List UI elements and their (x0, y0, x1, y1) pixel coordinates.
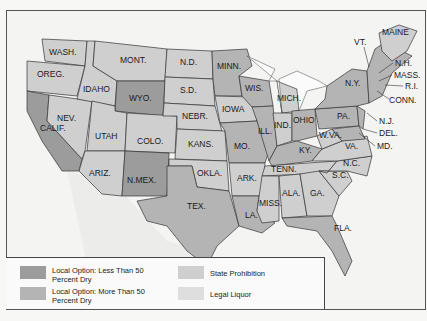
label-ark: ARK. (237, 173, 257, 183)
label-wis: WIS. (245, 83, 263, 93)
label-ri: R.I. (405, 81, 418, 91)
legend-swatch (20, 266, 46, 279)
label-ala: ALA. (282, 188, 300, 198)
label-md: MD. (377, 141, 393, 151)
label-utah: UTAH (95, 131, 118, 141)
legend-item-more-than-50-dry: Local Option: More Than 50 Percent Dry (20, 287, 162, 305)
label-wyo: WYO. (129, 93, 152, 103)
label-del: DEL. (379, 128, 398, 138)
label-nebr: NEBR. (182, 111, 208, 121)
label-pa: PA. (337, 111, 350, 121)
label-wash: WASH. (49, 47, 77, 57)
legend-swatch (178, 266, 204, 279)
label-vt: VT. (354, 37, 366, 47)
state-nmex (122, 151, 169, 196)
label-okla: OKLA. (197, 168, 222, 178)
label-ga: GA. (310, 188, 325, 198)
label-conn: CONN. (389, 95, 416, 105)
label-ind: IND. (274, 120, 291, 130)
legend-item-legal-liquor: Legal Liquor (178, 287, 320, 300)
label-calif: CALIF. (40, 123, 66, 133)
label-mo: MO. (234, 141, 250, 151)
legend: Local Option: Less Than 50 Percent Dry L… (6, 257, 325, 309)
label-nc: N.C. (343, 158, 360, 168)
legend-label: Local Option: More Than 50 Percent Dry (52, 287, 162, 305)
label-mich: MICH. (277, 93, 301, 103)
label-tenn: TENN. (271, 164, 297, 174)
label-mont: MONT. (120, 55, 146, 65)
label-nev: NEV. (57, 113, 76, 123)
label-colo: COLO. (137, 136, 163, 146)
label-minn: MINN. (217, 61, 241, 71)
legend-label: State Prohibition (210, 266, 320, 278)
label-nj: N.J. (379, 116, 394, 126)
state-colo (125, 113, 177, 153)
label-maine: MAINE (382, 27, 409, 37)
label-sd: S.D. (180, 85, 197, 95)
label-la: LA. (245, 210, 258, 220)
label-ohio: OHIO (293, 115, 315, 125)
label-ny: N.Y. (345, 78, 360, 88)
label-mass: MASS. (394, 70, 420, 80)
label-iowa: IOWA (222, 104, 245, 114)
legend-item-state-prohibition: State Prohibition (178, 266, 320, 279)
legend-swatch (178, 287, 204, 300)
label-fla: FLA. (334, 223, 352, 233)
label-ill: ILL. (258, 126, 272, 136)
label-wva: W.VA. (319, 130, 342, 140)
label-tex: TEX. (187, 201, 206, 211)
label-miss: MISS. (259, 198, 282, 208)
label-sc: S.C. (332, 170, 349, 180)
label-nmex: N.MEX. (127, 175, 156, 185)
legend-label: Local Option: Less Than 50 Percent Dry (52, 266, 162, 284)
label-nd: N.D. (180, 57, 197, 67)
label-ky: KY. (299, 145, 312, 155)
legend-swatch (20, 287, 46, 300)
label-va: VA. (345, 141, 358, 151)
label-oreg: OREG. (37, 69, 64, 79)
state-ohio (292, 109, 317, 141)
legend-label: Legal Liquor (210, 287, 320, 299)
label-nh: N.H. (395, 58, 412, 68)
label-ariz: ARIZ. (89, 168, 111, 178)
label-idaho: IDAHO (83, 84, 110, 94)
legend-item-less-than-50-dry: Local Option: Less Than 50 Percent Dry (20, 266, 162, 284)
label-kans: KANS. (188, 139, 214, 149)
